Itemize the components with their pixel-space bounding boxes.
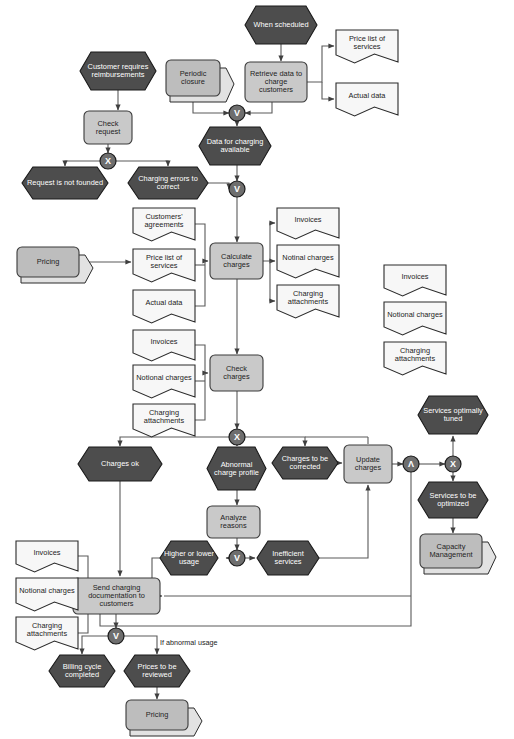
fn_calculate_charges[interactable]: Calculate charges — [212, 243, 261, 279]
fn_analyze_reasons[interactable]: Analyze reasons — [209, 506, 258, 538]
gw_or_reasons-glyph[interactable]: V — [229, 550, 245, 566]
doc_charging_att_out[interactable]: Charging attachments — [279, 285, 337, 310]
sys_periodic_closure[interactable]: Periodic closure — [168, 60, 218, 96]
fn_send_charging_doc[interactable]: Send charging documentation to customers — [75, 578, 158, 614]
ev_inefficient[interactable]: Inefficient services — [260, 541, 316, 575]
gw_xor_services-glyph[interactable]: X — [445, 456, 461, 472]
ev_prices_reviewed[interactable]: Prices to be reviewed — [127, 655, 187, 687]
doc_customers_agr[interactable]: Customers' agreements — [135, 208, 193, 233]
lbl_if_abnormal_usage: If abnormal usage — [160, 638, 218, 647]
doc_price_list_mid[interactable]: Price list of services — [135, 249, 193, 274]
gw_or_send-glyph[interactable]: V — [108, 628, 124, 644]
doc_charging_bottom[interactable]: Charging attachments — [18, 617, 76, 642]
gw_or_errors-glyph[interactable]: V — [229, 181, 245, 197]
gw_xor_check-glyph[interactable]: X — [229, 429, 245, 445]
fn_check_request[interactable]: Check request — [86, 111, 130, 144]
doc_actual_data_top[interactable]: Actual data — [338, 83, 396, 108]
ev_higher_lower[interactable]: Higher or lower usage — [163, 541, 215, 575]
fn_check_charges[interactable]: Check charges — [212, 355, 261, 391]
doc_invoices_right[interactable]: Invoices — [386, 265, 444, 288]
doc_notinal_out[interactable]: Notinal charges — [279, 245, 337, 270]
doc_notional_in[interactable]: Notional charges — [135, 365, 193, 390]
ev_charges_corrected[interactable]: Charges to be corrected — [275, 447, 335, 479]
ev_billing_cycle[interactable]: Billing cycle completed — [52, 655, 112, 687]
gw_and_update-glyph[interactable]: Λ — [403, 456, 419, 472]
doc_invoices_in[interactable]: Invoices — [135, 330, 193, 353]
doc_invoices_bottom[interactable]: Invoices — [18, 541, 76, 564]
doc_notional_bottom[interactable]: Notional charges — [18, 578, 76, 603]
doc_charging_att_in[interactable]: Charging attachments — [135, 404, 193, 429]
doc_notional_right[interactable]: Notional charges — [386, 302, 444, 327]
sys_capacity_mgmt[interactable]: Capacity Management — [422, 534, 480, 568]
diagram-canvas: Customer requires reimbursementsWhen sch… — [0, 0, 514, 739]
ev_customer_requires[interactable]: Customer requires reimbursements — [83, 52, 153, 90]
ev_charges_ok[interactable]: Charges ok — [81, 447, 159, 481]
ev_abnormal_profile[interactable]: Abnormal charge profile — [210, 447, 263, 490]
ev_request_not_founded[interactable]: Request is not founded — [25, 167, 105, 199]
sys_pricing_left[interactable]: Pricing — [19, 247, 77, 277]
doc_invoices_out[interactable]: Invoices — [279, 208, 337, 231]
ev_charging_errors[interactable]: Charging errors to correct — [131, 167, 205, 199]
gw_xor_request-glyph[interactable]: X — [100, 153, 116, 169]
fn_update_charges[interactable]: Update charges — [346, 445, 390, 483]
doc_price_list_top[interactable]: Price list of services — [338, 30, 396, 55]
gw_or_top-glyph[interactable]: V — [229, 105, 245, 121]
doc_actual_data_mid[interactable]: Actual data — [135, 290, 193, 315]
sys_pricing_bottom[interactable]: Pricing — [128, 700, 186, 730]
ev_services_optimized[interactable]: Services to be optimized — [421, 482, 485, 518]
ev_services_tuned[interactable]: Services optimally tuned — [421, 396, 485, 434]
ev_when_scheduled[interactable]: When scheduled — [248, 6, 314, 44]
doc_charging_right[interactable]: Charging attachments — [386, 342, 444, 367]
fn_retrieve_data[interactable]: Retrieve data to charge customers — [247, 62, 305, 102]
ev_data_available[interactable]: Data for charging available — [202, 127, 268, 165]
